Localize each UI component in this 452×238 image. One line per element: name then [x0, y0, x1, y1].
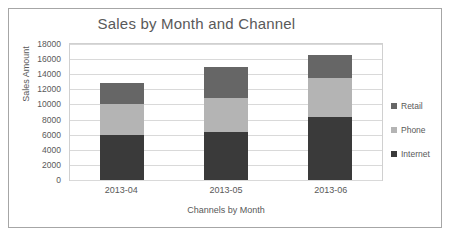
bar-series-group: [70, 44, 382, 180]
bar-segment-retail[interactable]: [308, 55, 352, 78]
bar-segment-phone[interactable]: [204, 98, 248, 131]
y-axis-tick-label: 2000: [42, 160, 61, 170]
bar-segment-internet[interactable]: [100, 135, 144, 180]
chart-container: Sales by Month and Channel Sales Amount …: [8, 8, 442, 228]
bar-segment-phone[interactable]: [100, 104, 144, 135]
legend-item-phone[interactable]: Phone: [391, 125, 451, 135]
x-axis-tick-label: 2013-04: [76, 185, 166, 195]
legend-label: Retail: [401, 101, 423, 111]
x-axis-tick-label: 2013-05: [181, 185, 271, 195]
bar-stack[interactable]: [100, 44, 144, 180]
x-axis-title: Channels by Month: [69, 205, 383, 215]
y-axis-tick-label: 12000: [37, 84, 61, 94]
bar-stack[interactable]: [308, 44, 352, 180]
y-axis-tick-label: 4000: [42, 145, 61, 155]
legend-swatch-icon: [391, 151, 397, 157]
bar-segment-internet[interactable]: [308, 117, 352, 180]
plot-area: [69, 43, 383, 181]
x-axis-tick-label: 2013-06: [286, 185, 376, 195]
y-axis-tick-label: 0: [56, 175, 61, 185]
legend-label: Phone: [401, 125, 426, 135]
y-axis-tick-label: 8000: [42, 115, 61, 125]
y-axis-tick-label: 14000: [37, 69, 61, 79]
bar-stack[interactable]: [204, 44, 248, 180]
legend-item-retail[interactable]: Retail: [391, 101, 451, 111]
y-axis-tick-label: 18000: [37, 39, 61, 49]
legend-swatch-icon: [391, 127, 397, 133]
x-axis-tick-labels: 2013-042013-052013-06: [69, 185, 383, 195]
legend-item-internet[interactable]: Internet: [391, 149, 451, 159]
y-axis-tick-label: 6000: [42, 130, 61, 140]
y-axis-tick-label: 10000: [37, 99, 61, 109]
chart-legend: RetailPhoneInternet: [391, 101, 451, 173]
legend-label: Internet: [401, 149, 430, 159]
chart-title: Sales by Month and Channel: [9, 15, 384, 32]
bar-segment-phone[interactable]: [308, 78, 352, 117]
bar-segment-retail[interactable]: [204, 67, 248, 99]
gridline: [70, 180, 382, 181]
bar-segment-retail[interactable]: [100, 83, 144, 105]
bar-segment-internet[interactable]: [204, 132, 248, 180]
y-axis-tick-label: 16000: [37, 54, 61, 64]
legend-swatch-icon: [391, 103, 397, 109]
y-axis-tick-labels: 1800016000140001200010000800060004000200…: [9, 43, 65, 181]
